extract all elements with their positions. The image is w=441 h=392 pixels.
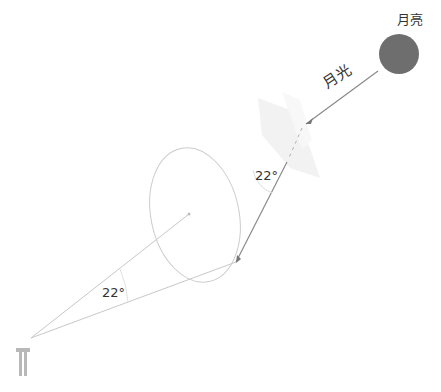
observer-icon [16,348,30,376]
halo-ring [138,139,252,290]
upper-angle-label: 22° [255,168,278,183]
sight-line-halo [31,262,236,338]
sight-line-center [31,214,189,338]
moon-label: 月亮 [397,9,423,28]
lower-angle-label: 22° [102,285,125,300]
halo-diagram [0,0,441,392]
moon-icon [379,34,419,74]
